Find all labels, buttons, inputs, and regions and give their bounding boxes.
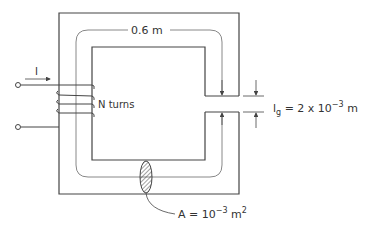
area-label: A = 10−3 m2 <box>178 206 247 221</box>
terminal-top <box>16 83 21 88</box>
current-label: I <box>35 66 38 77</box>
area-leader-line <box>146 193 175 214</box>
cross-section-hatch <box>140 161 152 193</box>
turns-label: N turns <box>98 99 134 110</box>
magnetic-circuit-diagram: 0.6 m lg = 2 x 10−3 m I N turns A = 10−3… <box>0 0 367 234</box>
mean-length-label: 0.6 m <box>131 24 163 37</box>
coil-windings <box>57 85 95 117</box>
gap-length-label: lg = 2 x 10−3 m <box>273 100 358 117</box>
terminal-bottom <box>16 125 21 130</box>
